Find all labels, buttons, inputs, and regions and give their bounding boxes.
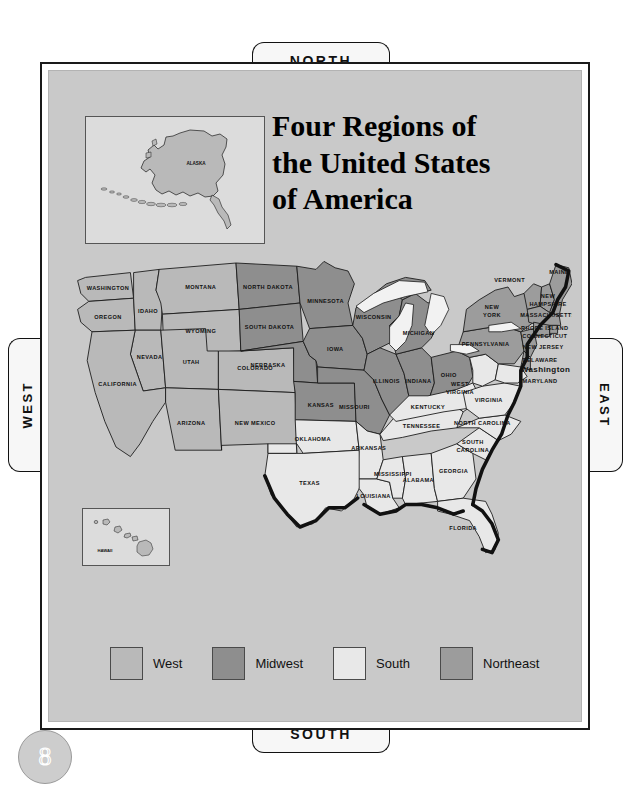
legend-label-south: South bbox=[376, 656, 410, 671]
label-iowa: IOWA bbox=[327, 346, 344, 352]
legend-item-northeast: Northeast bbox=[440, 647, 539, 680]
label-kansas: KANSAS bbox=[308, 402, 334, 408]
legend-item-south: South bbox=[333, 647, 410, 680]
label-ohio: OHIO bbox=[441, 372, 457, 378]
page-title-line-2: the United States bbox=[272, 145, 520, 182]
label-california: CALIFORNIA bbox=[98, 381, 137, 387]
label-pennsylvania: PENNSYLVANIA bbox=[462, 341, 510, 347]
state-minnesota bbox=[297, 261, 355, 328]
label-washington-dc: Washington D.C. bbox=[521, 365, 572, 374]
legend-swatch-south bbox=[333, 647, 366, 680]
label-wyoming: WYOMING bbox=[185, 328, 216, 334]
label-south-carolina-line-1: SOUTH bbox=[462, 439, 484, 445]
label-connecticut: CONNECTICUT bbox=[522, 333, 567, 339]
label-wisconsin: WISCONSIN bbox=[356, 314, 392, 320]
lake-huron bbox=[425, 293, 449, 335]
label-maine: MAINE bbox=[549, 269, 569, 275]
label-vermont: VERMONT bbox=[494, 277, 525, 283]
map-legend: West Midwest South Northeast bbox=[110, 646, 530, 680]
label-west-virginia-line-2: VIRGINIA bbox=[446, 389, 474, 395]
label-new-york-line-1: NEW bbox=[485, 304, 500, 310]
worksheet-page: NORTH SOUTH WEST EAST Four Regions of th… bbox=[0, 0, 630, 804]
legend-label-northeast: Northeast bbox=[483, 656, 539, 671]
label-michigan: MICHIGAN bbox=[403, 330, 434, 336]
legend-item-midwest: Midwest bbox=[212, 647, 303, 680]
label-tennessee: TENNESSEE bbox=[403, 423, 440, 429]
state-texas bbox=[265, 450, 364, 527]
compass-label-west: WEST bbox=[20, 381, 35, 429]
label-maryland: MARYLAND bbox=[523, 378, 558, 384]
label-massachusetts: MASSACHUSETTS bbox=[520, 312, 572, 318]
label-oklahoma: OKLAHOMA bbox=[295, 436, 331, 442]
label-louisiana: LOUISIANA bbox=[356, 493, 390, 499]
legend-item-west: West bbox=[110, 647, 182, 680]
label-west-virginia-line-1: WEST bbox=[451, 381, 469, 387]
alaska-label: ALASKA bbox=[186, 161, 206, 166]
legend-label-west: West bbox=[153, 656, 182, 671]
label-nebraska: NEBRASKA bbox=[251, 362, 286, 368]
legend-swatch-northeast bbox=[440, 647, 473, 680]
label-texas: TEXAS bbox=[299, 480, 320, 486]
alaska-island-2 bbox=[146, 152, 151, 158]
label-new-hampshire-line-1: NEW bbox=[541, 293, 556, 299]
label-florida: FLORIDA bbox=[449, 525, 477, 531]
label-mississippi: MISSISSIPPI bbox=[374, 471, 412, 477]
label-new-york-line-2: YORK bbox=[483, 312, 501, 318]
page-title-line-1: Four Regions of bbox=[272, 108, 520, 145]
label-kentucky: KENTUCKY bbox=[411, 404, 445, 410]
alaska-inset-box: ALASKA bbox=[85, 116, 265, 244]
label-illinois: ILLINOIS bbox=[373, 378, 400, 384]
label-north-dakota: NORTH DAKOTA bbox=[243, 284, 293, 290]
compass-label-east: EAST bbox=[597, 383, 612, 428]
label-utah: UTAH bbox=[183, 359, 200, 365]
label-montana: MONTANA bbox=[185, 284, 216, 290]
label-arizona: ARIZONA bbox=[177, 420, 205, 426]
label-south-carolina-line-2: CAROLINA bbox=[456, 447, 489, 453]
label-delaware: DELAWARE bbox=[523, 357, 558, 363]
alaska-panhandle bbox=[210, 195, 231, 229]
label-arkansas: ARKANSAS bbox=[351, 445, 386, 451]
label-alabama: ALABAMA bbox=[403, 477, 434, 483]
us-map: WASHINGTON OREGON IDAHO MONTANA WYOMING … bbox=[60, 255, 572, 575]
label-virginia: VIRGINIA bbox=[475, 397, 503, 403]
legend-label-midwest: Midwest bbox=[255, 656, 303, 671]
label-missouri: MISSOURI bbox=[339, 404, 370, 410]
label-north-carolina: NORTH CAROLINA bbox=[454, 420, 511, 426]
alaska-map: ALASKA bbox=[86, 117, 264, 243]
label-washington: WASHINGTON bbox=[87, 285, 129, 291]
label-rhode-island: RHODE ISLAND bbox=[521, 325, 568, 331]
label-new-jersey: NEW JERSEY bbox=[523, 344, 564, 350]
label-oregon: OREGON bbox=[94, 314, 121, 320]
page-number-badge: 8 bbox=[18, 730, 72, 784]
label-new-hampshire-line-2: HAMPSHIRE bbox=[529, 301, 566, 307]
page-title: Four Regions of the United States of Ame… bbox=[272, 108, 520, 218]
label-georgia: GEORGIA bbox=[439, 468, 468, 474]
label-new-mexico: NEW MEXICO bbox=[235, 420, 276, 426]
legend-swatch-midwest bbox=[212, 647, 245, 680]
label-indiana: INDIANA bbox=[405, 378, 431, 384]
compass-tab-east: EAST bbox=[586, 338, 623, 472]
page-title-line-3: of America bbox=[272, 181, 520, 218]
alaska-island-1 bbox=[152, 139, 157, 146]
label-nevada: NEVADA bbox=[137, 354, 163, 360]
label-south-dakota: SOUTH DAKOTA bbox=[245, 324, 294, 330]
label-minnesota: MINNESOTA bbox=[307, 298, 344, 304]
page-number-text: 8 bbox=[39, 742, 52, 772]
label-idaho: IDAHO bbox=[138, 308, 158, 314]
legend-swatch-west bbox=[110, 647, 143, 680]
